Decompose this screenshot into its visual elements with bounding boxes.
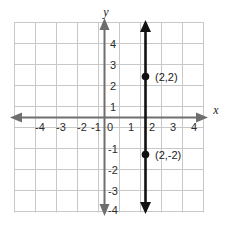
data-point-label: (2,-2) <box>155 149 181 161</box>
x-tick-label: -4 <box>35 121 45 133</box>
x-tick-label: -3 <box>56 121 66 133</box>
data-point-marker <box>142 73 150 81</box>
coordinate-plane-graph: -4 -3 -2 -1 0 1 2 3 4 4 3 2 1 -1 -2 -3 -… <box>0 0 225 227</box>
x-axis-name: x <box>212 103 219 117</box>
y-tick-label: 4 <box>110 38 116 50</box>
x-tick-label: 2 <box>149 121 155 133</box>
y-tick-label: -4 <box>108 204 118 216</box>
y-tick-label: -1 <box>108 143 118 155</box>
data-point-marker <box>142 151 150 159</box>
y-tick-label: -3 <box>108 185 118 197</box>
x-tick-label: -1 <box>91 121 101 133</box>
x-tick-label: -2 <box>77 121 87 133</box>
x-tick-label: 3 <box>170 121 176 133</box>
y-axis-name: y <box>102 5 109 19</box>
x-tick-label-origin: 0 <box>107 121 113 133</box>
data-point-label: (2,2) <box>155 71 178 83</box>
y-tick-label: 1 <box>110 101 116 113</box>
y-tick-label: 3 <box>110 59 116 71</box>
x-tick-label: 4 <box>191 121 197 133</box>
y-tick-label: 2 <box>110 80 116 92</box>
x-tick-label: 1 <box>128 121 134 133</box>
y-tick-label: -2 <box>108 164 118 176</box>
graph-svg: -4 -3 -2 -1 0 1 2 3 4 4 3 2 1 -1 -2 -3 -… <box>0 0 225 227</box>
